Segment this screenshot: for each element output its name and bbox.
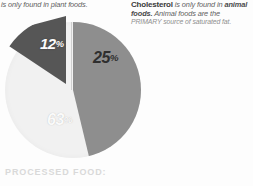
infographic-page: is only found in plant foods. Cholestero… <box>0 0 253 186</box>
pie-label-25: 25% <box>93 49 118 67</box>
processed-food-heading: PROCESSED FOOD: <box>5 167 107 177</box>
pie-label-12-percent: % <box>56 39 64 49</box>
pie-label-12-value: 12 <box>40 35 56 52</box>
pie-label-63: 63% <box>47 111 72 129</box>
pie-label-12: 12% <box>40 35 64 52</box>
pie-label-25-percent: % <box>110 52 119 63</box>
caption-left-text: is only found in plant foods. <box>1 1 123 10</box>
pie-chart: 12% 25% 63% <box>0 16 200 160</box>
pie-label-25-value: 25 <box>93 49 110 66</box>
pie-label-63-value: 63 <box>47 111 64 128</box>
pie-wedge-separator <box>71 22 72 90</box>
pie-label-63-percent: % <box>64 114 73 125</box>
